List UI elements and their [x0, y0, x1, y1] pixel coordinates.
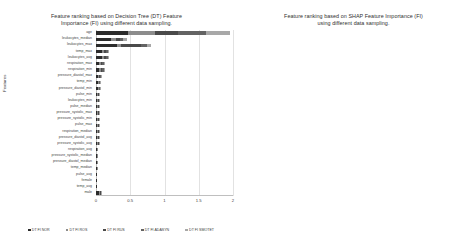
bar-segment[interactable] — [96, 38, 111, 41]
y-axis-tick-label: leukocytes_median — [62, 37, 92, 41]
bar-segment[interactable] — [108, 56, 109, 59]
chart-title-right: Feature ranking based on SHAP Feature Im… — [237, 13, 470, 28]
legend-item[interactable]: DT FI RUS — [103, 228, 124, 232]
bar-segment[interactable] — [108, 50, 109, 53]
bar-segment[interactable] — [99, 93, 100, 96]
stacked-bar[interactable] — [96, 50, 109, 53]
stacked-bar[interactable] — [96, 81, 101, 84]
bar-rows-left — [96, 30, 233, 196]
bar-segment[interactable] — [96, 173, 97, 176]
stacked-bar[interactable] — [96, 173, 97, 176]
stacked-bar[interactable] — [96, 118, 100, 121]
y-axis-tick-label: temp_min — [77, 80, 92, 84]
bar-segment[interactable] — [96, 31, 128, 34]
y-axis-tick-labels-left: ageleukocytes_medianleukocytes_maxtemp_m… — [0, 30, 94, 196]
legend-item[interactable]: DT FI SMOTET — [185, 228, 214, 232]
bar-segment[interactable] — [99, 118, 100, 121]
bar-row — [96, 118, 233, 121]
stacked-bar[interactable] — [96, 179, 97, 182]
stacked-bar[interactable] — [96, 99, 100, 102]
stacked-bar[interactable] — [96, 148, 97, 151]
legend-item[interactable]: DT FI NOR — [28, 228, 50, 232]
bar-segment[interactable] — [100, 87, 101, 90]
figure-container: Feature ranking based on Decision Tree (… — [0, 0, 474, 250]
legend-left: DT FI NORDT FI ROSDT FI RUSDT FI ADASYND… — [28, 228, 214, 232]
stacked-bar[interactable] — [96, 136, 100, 139]
bar-segment[interactable] — [101, 191, 102, 194]
bar-segment[interactable] — [104, 68, 105, 71]
stacked-bar[interactable] — [96, 87, 101, 90]
bar-row — [96, 50, 233, 53]
bar-segment[interactable] — [96, 44, 117, 47]
y-axis-tick-label: temp_max — [76, 50, 92, 54]
bar-row — [96, 31, 233, 34]
bar-row — [96, 81, 233, 84]
stacked-bar[interactable] — [96, 161, 97, 164]
legend-label: DT FI SMOTET — [189, 228, 214, 232]
bar-segment[interactable] — [155, 31, 178, 34]
stacked-bar[interactable] — [96, 68, 104, 71]
bar-segment[interactable] — [206, 31, 231, 34]
stacked-bar[interactable] — [96, 154, 97, 157]
stacked-bar[interactable] — [96, 130, 100, 133]
legend-swatch-icon — [185, 229, 188, 232]
bar-row — [96, 136, 233, 139]
bar-segment[interactable] — [97, 167, 98, 170]
y-axis-tick-label: pressure_systolic_max — [56, 111, 92, 115]
bar-segment[interactable] — [97, 161, 98, 164]
legend-swatch-icon — [141, 229, 144, 232]
y-axis-tick-label: pressure_systolic_median — [52, 154, 92, 158]
legend-label: DT FI ADASYN — [145, 228, 170, 232]
stacked-bar[interactable] — [96, 111, 100, 114]
bar-row — [96, 179, 233, 182]
bar-row — [96, 38, 233, 41]
stacked-bar[interactable] — [96, 56, 109, 59]
x-axis-tick-label: 1.5 — [196, 198, 202, 203]
bar-segment[interactable] — [99, 105, 100, 108]
bar-segment[interactable] — [97, 148, 98, 151]
y-axis-tick-label: leukocytes_min — [68, 99, 92, 103]
stacked-bar[interactable] — [96, 142, 100, 145]
bar-segment[interactable] — [121, 44, 142, 47]
bar-segment[interactable] — [99, 130, 100, 133]
bar-segment[interactable] — [96, 179, 97, 182]
bar-segment[interactable] — [99, 136, 100, 139]
stacked-bar[interactable] — [96, 124, 100, 127]
bar-segment[interactable] — [128, 31, 155, 34]
bar-segment[interactable] — [96, 185, 97, 188]
bar-segment[interactable] — [99, 99, 100, 102]
stacked-bar[interactable] — [96, 185, 97, 188]
stacked-bar[interactable] — [96, 93, 100, 96]
bar-row — [96, 173, 233, 176]
y-axis-tick-label: leukocytes_avg — [68, 56, 92, 60]
stacked-bar[interactable] — [96, 75, 101, 78]
stacked-bar[interactable] — [96, 44, 151, 47]
stacked-bar[interactable] — [96, 105, 100, 108]
y-axis-tick-label: leukocytes_max — [67, 43, 92, 47]
bar-segment[interactable] — [178, 31, 205, 34]
bar-segment[interactable] — [104, 62, 105, 65]
stacked-bar[interactable] — [96, 62, 105, 65]
bar-segment[interactable] — [99, 142, 100, 145]
bar-row — [96, 93, 233, 96]
bar-row — [96, 161, 233, 164]
stacked-bar[interactable] — [96, 191, 102, 194]
y-axis-tick-label: respiration_min — [68, 68, 92, 72]
bar-segment[interactable] — [99, 111, 100, 114]
stacked-bar[interactable] — [96, 38, 127, 41]
legend-swatch-icon — [28, 229, 31, 232]
bar-segment[interactable] — [101, 75, 102, 78]
bar-segment[interactable] — [123, 38, 126, 41]
y-axis-tick-label: pulse_max — [75, 123, 92, 127]
plot-area-left — [96, 30, 233, 196]
stacked-bar[interactable] — [96, 31, 230, 34]
stacked-bar[interactable] — [96, 167, 97, 170]
bar-segment[interactable] — [147, 44, 151, 47]
bar-segment[interactable] — [97, 154, 98, 157]
legend-item[interactable]: DT FI ROS — [66, 228, 88, 232]
legend-item[interactable]: DT FI ADASYN — [141, 228, 169, 232]
bar-segment[interactable] — [99, 124, 100, 127]
bar-segment[interactable] — [100, 81, 101, 84]
y-axis-tick-label: respiration_median — [62, 130, 92, 134]
y-axis-tick-label: pulse_median — [70, 105, 92, 109]
